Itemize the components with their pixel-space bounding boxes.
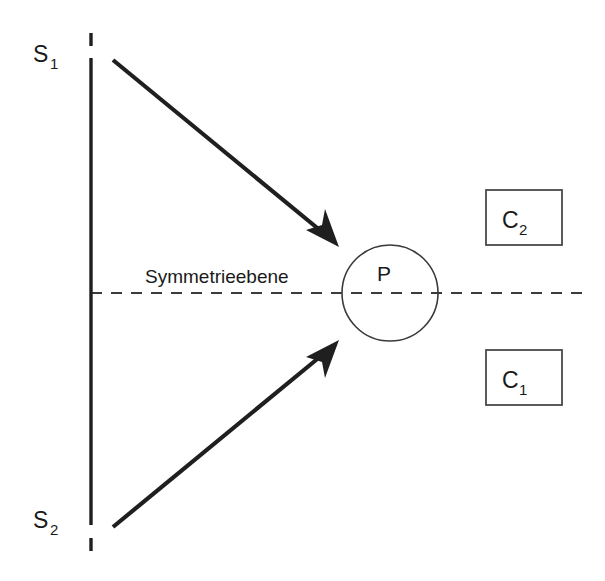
source-s2-label: S: [33, 507, 48, 533]
beam-lower-line: [113, 351, 327, 527]
beam-upper-line: [113, 60, 327, 236]
detector-c1-subscript: 1: [519, 381, 527, 398]
symmetry-plane-label: Symmetrieebene: [145, 266, 289, 287]
source-s1-subscript: 1: [50, 55, 58, 72]
beam-upper-group: [113, 60, 339, 247]
beam-lower-group: [113, 340, 339, 527]
source-s1-label: S: [33, 41, 48, 67]
diagram-canvas: P Symmetrieebene S 1 S 2 C 2 C 1: [0, 0, 605, 581]
beam-upper-arrowhead-icon: [306, 209, 339, 247]
detector-c2-label: C: [502, 207, 519, 233]
detector-c1-group: C 1: [486, 350, 562, 405]
point-p-label: P: [377, 262, 391, 285]
source-s2-subscript: 2: [50, 521, 58, 538]
detector-c2-subscript: 2: [519, 221, 527, 238]
beam-lower-arrowhead-icon: [306, 340, 339, 378]
symmetrieebene-diagram: P Symmetrieebene S 1 S 2 C 2 C 1: [0, 0, 605, 581]
detector-c2-group: C 2: [486, 190, 562, 245]
source-s1-label-group: S 1: [33, 41, 58, 72]
detector-c1-label: C: [502, 367, 519, 393]
source-s2-label-group: S 2: [33, 507, 58, 538]
